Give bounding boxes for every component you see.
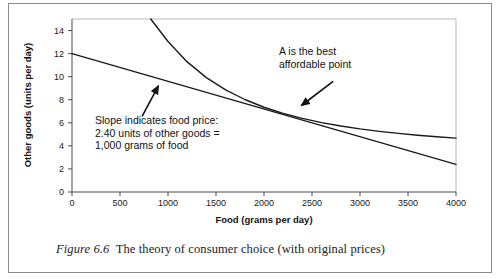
best-point-annotation-line: affordable point <box>279 58 351 70</box>
annotation-arrows <box>142 81 333 116</box>
y-tick-label: 10 <box>54 72 64 82</box>
x-tick-label: 3000 <box>350 198 370 208</box>
y-tick-label: 0 <box>59 187 64 197</box>
x-axis-title: Food (grams per day) <box>215 214 312 225</box>
y-tick-label: 14 <box>54 26 64 36</box>
annotation-texts: Slope indicates food price:2.40 units of… <box>95 45 351 151</box>
figure-frame: 02468101214 0500100015002000250030003500… <box>8 3 492 273</box>
x-axis-ticks: 05001000150020002500300035004000 <box>69 192 466 208</box>
y-tick-label: 12 <box>54 49 64 59</box>
chart-plot-area: 02468101214 0500100015002000250030003500… <box>9 4 493 230</box>
y-tick-label: 4 <box>59 141 64 151</box>
x-tick-label: 2500 <box>302 198 322 208</box>
x-tick-label: 1500 <box>206 198 226 208</box>
figure-caption: Figure 6.6 The theory of consumer choice… <box>56 242 476 257</box>
x-tick-label: 500 <box>112 198 127 208</box>
slope-annotation-line: 2.40 units of other goods = <box>95 127 220 139</box>
consumer-choice-chart: 02468101214 0500100015002000250030003500… <box>9 4 493 230</box>
best-point-annotation-line: A is the best <box>279 45 336 57</box>
slope-annotation-line: Slope indicates food price: <box>95 114 218 126</box>
y-tick-label: 6 <box>59 118 64 128</box>
best-point-annotation-arrow <box>301 81 333 105</box>
slope-annotation-line: 1,000 grams of food <box>95 139 189 151</box>
x-tick-label: 2000 <box>254 198 274 208</box>
y-axis-title: Other goods (units per day) <box>22 43 33 168</box>
x-tick-label: 4000 <box>446 198 466 208</box>
slope-annotation-arrow <box>142 86 158 117</box>
x-tick-label: 0 <box>69 198 74 208</box>
y-tick-label: 8 <box>59 95 64 105</box>
x-tick-label: 1000 <box>158 198 178 208</box>
figure-caption-text: The theory of consumer choice (with orig… <box>116 242 385 256</box>
x-tick-label: 3500 <box>398 198 418 208</box>
y-axis-ticks: 02468101214 <box>54 26 72 197</box>
figure-caption-label: Figure 6.6 <box>56 242 109 256</box>
y-tick-label: 2 <box>59 164 64 174</box>
